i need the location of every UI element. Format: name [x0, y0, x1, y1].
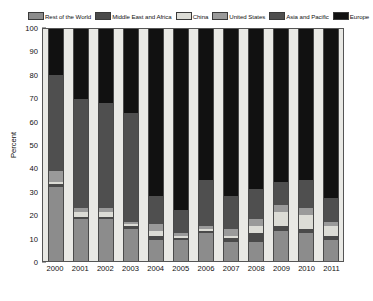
bar-segment — [249, 219, 263, 226]
x-axis: 2000200120022003200420052006200720082009… — [42, 264, 344, 280]
bar-segment — [49, 171, 63, 183]
y-axis-tick-label: 30 — [30, 187, 38, 196]
y-axis-tick-label: 0 — [34, 258, 38, 267]
bar-segment — [199, 29, 213, 180]
y-axis-tick-label: 60 — [30, 117, 38, 126]
bar-segment — [99, 29, 113, 103]
stacked-bar[interactable] — [148, 29, 164, 261]
y-axis-tick-label: 40 — [30, 164, 38, 173]
bar-segment — [299, 215, 313, 229]
bar-segment — [199, 180, 213, 226]
bar-segment — [149, 29, 163, 196]
legend-label: Europe — [350, 13, 369, 20]
bar-segment — [74, 219, 88, 261]
bar-segment — [299, 29, 313, 180]
bar-segment — [324, 29, 338, 198]
legend-entry[interactable]: United States — [212, 12, 269, 20]
x-axis-tick-label: 2007 — [223, 264, 239, 280]
bar-segment — [224, 229, 238, 236]
bar-segment — [249, 233, 263, 242]
legend-swatch-icon — [176, 12, 192, 20]
bar-segment — [249, 226, 263, 233]
chart-legend: Rest of the WorldMiddle East and AfricaC… — [28, 10, 358, 22]
x-axis-tick-label: 2009 — [273, 264, 289, 280]
legend-entry[interactable]: Rest of the World — [28, 12, 95, 20]
y-axis-tick-label: 50 — [30, 141, 38, 150]
bar-segment — [299, 208, 313, 215]
stacked-bar[interactable] — [48, 29, 64, 261]
y-axis-tick-label: 10 — [30, 234, 38, 243]
x-axis-tick-label: 2010 — [298, 264, 314, 280]
bar-segment — [249, 189, 263, 219]
bar-segment — [224, 242, 238, 261]
legend-entry[interactable]: Middle East and Africa — [95, 12, 176, 20]
x-axis-tick-label: 2002 — [97, 264, 113, 280]
bar-segment — [299, 180, 313, 208]
x-axis-tick-label: 2004 — [147, 264, 163, 280]
legend-swatch-icon — [333, 12, 349, 20]
bar-segment — [149, 224, 163, 231]
bar-segment — [274, 29, 288, 182]
bar-segment — [74, 29, 88, 99]
bar-segment — [149, 196, 163, 224]
bar-segment — [124, 29, 138, 113]
stacked-bar[interactable] — [198, 29, 214, 261]
y-axis-tick-label: 100 — [25, 24, 38, 33]
bar-segment — [324, 198, 338, 221]
bar-segment — [124, 229, 138, 261]
y-axis-tick-label: 70 — [30, 94, 38, 103]
x-axis-tick-label: 2001 — [72, 264, 88, 280]
y-axis-tick-label: 80 — [30, 70, 38, 79]
legend-label: Middle East and Africa — [112, 13, 172, 20]
stacked-bar[interactable] — [73, 29, 89, 261]
legend-label: Asia and Pacific — [286, 13, 329, 20]
stacked-bar[interactable] — [98, 29, 114, 261]
y-axis-tick-label: 90 — [30, 47, 38, 56]
bar-segment — [274, 205, 288, 212]
stacked-bar[interactable] — [123, 29, 139, 261]
bar-segment — [174, 210, 188, 233]
stacked-bar[interactable] — [298, 29, 314, 261]
bar-segment — [249, 29, 263, 189]
bar-segment — [99, 219, 113, 261]
bar-segment — [299, 233, 313, 261]
legend-label: Rest of the World — [45, 13, 91, 20]
bar-segment — [274, 231, 288, 261]
bar-segment — [174, 29, 188, 210]
x-axis-tick-label: 2000 — [47, 264, 63, 280]
bar-segment — [49, 75, 63, 170]
legend-entry[interactable]: Europe — [333, 12, 373, 20]
bar-segment — [274, 182, 288, 205]
x-axis-tick-label: 2008 — [248, 264, 264, 280]
bar-segment — [124, 113, 138, 222]
stacked-bar[interactable] — [323, 29, 339, 261]
y-axis-label: Percent — [9, 110, 18, 180]
stacked-bar[interactable] — [223, 29, 239, 261]
bar-segment — [324, 240, 338, 261]
bar-segment — [224, 196, 238, 228]
legend-swatch-icon — [28, 12, 44, 20]
legend-label: United States — [229, 13, 265, 20]
bar-segment — [199, 233, 213, 261]
bar-segment — [324, 226, 338, 235]
legend-swatch-icon — [95, 12, 111, 20]
stacked-bar[interactable] — [173, 29, 189, 261]
stacked-bar[interactable] — [273, 29, 289, 261]
x-axis-tick-label: 2011 — [323, 264, 339, 280]
bar-segment — [224, 29, 238, 196]
bar-segment — [249, 242, 263, 261]
x-axis-tick-label: 2006 — [198, 264, 214, 280]
bar-segment — [49, 29, 63, 75]
bar-segment — [274, 212, 288, 226]
x-axis-tick-label: 2003 — [122, 264, 138, 280]
bar-segment — [74, 99, 88, 208]
legend-entry[interactable]: Asia and Pacific — [269, 12, 333, 20]
y-axis: Percent 0102030405060708090100 — [0, 28, 42, 262]
plot-area — [42, 28, 344, 262]
x-axis-tick-label: 2005 — [172, 264, 188, 280]
legend-entry[interactable]: China — [176, 12, 213, 20]
bars-group — [43, 29, 343, 261]
bar-segment — [99, 103, 113, 207]
stacked-bar[interactable] — [248, 29, 264, 261]
